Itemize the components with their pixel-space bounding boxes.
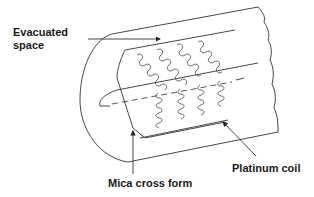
mica-cross-form	[100, 30, 258, 138]
platinum-coil-arrow	[223, 122, 256, 156]
evacuated-space-label: Evacuated space	[13, 26, 68, 52]
evacuated-space-label-line1: Evacuated	[13, 26, 68, 39]
leader-arrows	[88, 39, 256, 174]
platinum-coils-lower	[156, 78, 244, 128]
outer-cylinder	[80, 7, 278, 162]
mica-cross-form-label: Mica cross form	[108, 177, 192, 190]
evacuated-space-label-line2: space	[13, 39, 68, 52]
platinum-coils-upper	[137, 41, 222, 90]
platinum-coil-label: Platinum coil	[232, 162, 300, 175]
